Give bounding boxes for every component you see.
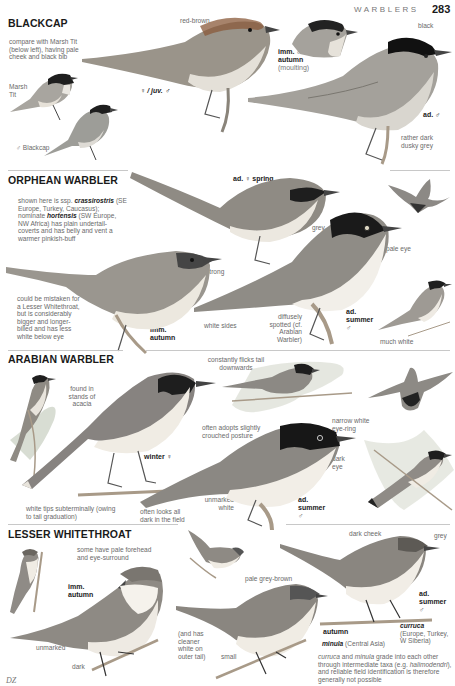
lesser-imm-autumn-illustration [8, 560, 168, 682]
note-blackcap-compare: compare with Marsh Tit (below left), hav… [9, 38, 81, 61]
arabian-ad-summer-male-illustration [140, 420, 355, 530]
orphean-ad-summer-male-illustration [192, 204, 402, 344]
divider-arabian-lesser-right [286, 524, 450, 525]
divider-orphean-arabian [8, 350, 123, 351]
orphean-imm-autumn-illustration [6, 245, 221, 355]
label-black: black [418, 22, 433, 30]
section-title-orphean-warbler: ORPHEAN WARBLER [8, 174, 118, 186]
section-title-lesser-whitethroat: LESSER WHITETHROAT [8, 528, 132, 540]
divider-arabian-lesser [8, 524, 178, 525]
divider-orphean-arabian-right [146, 350, 450, 351]
arabian-acacia-perched-right-illustration [364, 430, 454, 520]
divider-blackcap-orphean [8, 170, 128, 171]
lesser-ad-summer-curruca-illustration [280, 534, 440, 632]
orphean-perched-small-illustration [378, 278, 450, 338]
section-title-arabian-warbler: ARABIAN WARBLER [8, 353, 114, 365]
divider-blackcap-orphean-right [390, 170, 450, 171]
label-white-tips: white tips subterminally (owing to tail … [26, 505, 116, 520]
ad-male-blackcap-illustration [248, 36, 448, 166]
note-orphean-ssp: shown here is ssp. crassirostris (SE Eur… [18, 197, 128, 243]
label-pale-forehead: some have pale forehead and eye-surround [77, 546, 157, 561]
running-head: WARBLERS [354, 5, 419, 14]
lesser-perched-right-small-illustration [186, 528, 248, 580]
page-number: 283 [432, 3, 450, 15]
note-grade-into-each-other: curruca and minula grade into each other… [318, 653, 452, 683]
arabian-tail-flicking-illustration [222, 355, 352, 420]
arabian-flight-illustration [368, 358, 453, 416]
section-title-blackcap: BLACKCAP [8, 17, 68, 29]
